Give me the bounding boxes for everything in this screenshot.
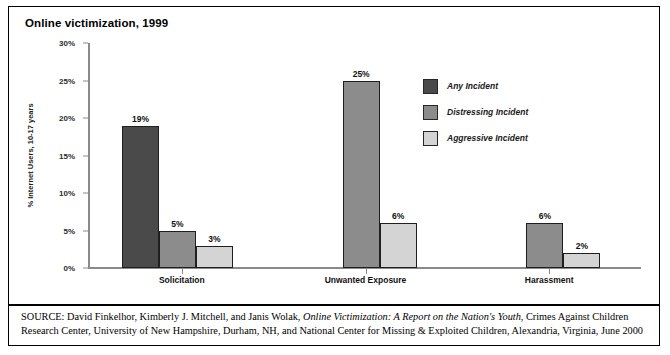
figure-frame: Online victimization, 1999 % Internet Us…	[8, 6, 660, 346]
legend-label: Aggressive Incident	[447, 133, 528, 143]
source-label: SOURCE:	[21, 311, 65, 322]
bar[interactable]: 2%	[563, 253, 600, 268]
legend-swatch	[423, 131, 438, 146]
source-publication-title: Online Victimization: A Report on the Na…	[303, 311, 521, 322]
x-axis-category-label: Harassment	[525, 275, 574, 285]
bar-value-label: 6%	[392, 211, 404, 221]
y-axis-ticks: 0%5%10%15%20%25%30%	[39, 43, 83, 268]
legend-item[interactable]: Any Incident	[423, 73, 613, 99]
legend-label: Any Incident	[447, 81, 498, 91]
legend-swatch	[423, 105, 438, 120]
y-axis-tick-label: 10%	[59, 189, 75, 198]
y-axis-tick-label: 30%	[59, 39, 75, 48]
x-axis-tick-mark	[182, 268, 183, 274]
y-axis-tick-label: 5%	[63, 226, 75, 235]
legend-swatch	[423, 79, 438, 94]
chart-plot-region: % Internet Users, 10-17 years 0%5%10%15%…	[25, 43, 645, 296]
source-text-part-1: David Finkelhor, Kimberly J. Mitchell, a…	[65, 311, 304, 322]
source-divider	[9, 304, 659, 306]
y-axis-tick-label: 15%	[59, 151, 75, 160]
bar[interactable]: 3%	[196, 246, 233, 269]
bar-group: 19%5%3%	[90, 43, 274, 268]
source-note: SOURCE: David Finkelhor, Kimberly J. Mit…	[21, 310, 649, 337]
bar[interactable]: 25%	[343, 81, 380, 269]
chart-legend: Any IncidentDistressing IncidentAggressi…	[423, 73, 613, 151]
bar[interactable]: 6%	[380, 223, 417, 268]
legend-label: Distressing Incident	[447, 107, 528, 117]
x-axis-category-label: Unwanted Exposure	[325, 275, 407, 285]
bar[interactable]: 6%	[526, 223, 563, 268]
bar[interactable]: 19%	[122, 126, 159, 269]
y-axis-tick-label: 20%	[59, 114, 75, 123]
bar-value-label: 19%	[132, 114, 149, 124]
legend-item[interactable]: Aggressive Incident	[423, 125, 613, 151]
legend-item[interactable]: Distressing Incident	[423, 99, 613, 125]
y-axis-tick-label: 0%	[63, 264, 75, 273]
bar-value-label: 6%	[539, 211, 551, 221]
y-axis-tick-label: 25%	[59, 76, 75, 85]
x-axis-tick-mark	[366, 268, 367, 274]
bar[interactable]: 5%	[159, 231, 196, 269]
y-axis-title-text: % Internet Users, 10-17 years	[26, 103, 35, 207]
page-title: Online victimization, 1999	[25, 17, 168, 29]
x-axis-category-label: Solicitation	[159, 275, 205, 285]
bar-value-label: 5%	[171, 219, 183, 229]
bar-value-label: 25%	[353, 69, 370, 79]
bar-value-label: 2%	[576, 241, 588, 251]
y-axis-title: % Internet Users, 10-17 years	[23, 43, 37, 268]
bar-value-label: 3%	[208, 234, 220, 244]
x-axis-tick-mark	[549, 268, 550, 274]
